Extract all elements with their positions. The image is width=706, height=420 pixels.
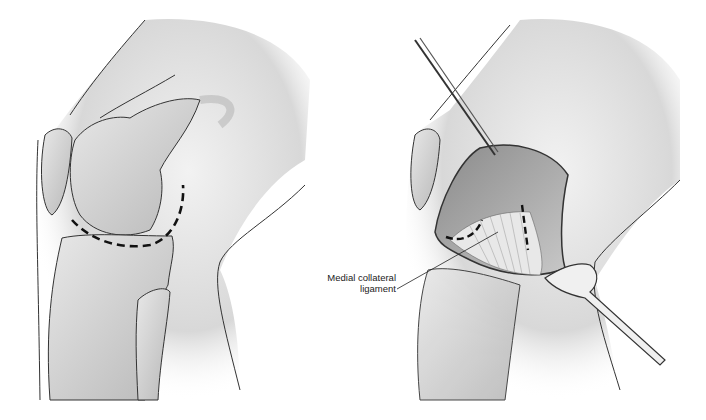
knee-illustration <box>0 0 706 420</box>
right-knee-panel <box>406 19 680 400</box>
label-line-2: ligament <box>300 283 396 294</box>
medial-collateral-ligament-label: Medial collateral ligament <box>300 272 396 294</box>
left-knee-panel <box>37 19 310 400</box>
label-line-1: Medial collateral <box>300 272 396 283</box>
